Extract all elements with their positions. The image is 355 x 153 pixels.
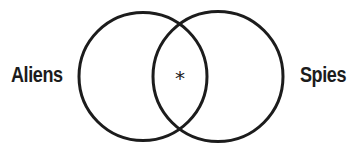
asterisk-icon: * [173,68,187,88]
set-circle-aliens [79,13,207,141]
set-label-aliens: Aliens [11,64,63,86]
venn-diagram: Aliens Spies * [0,0,355,153]
set-label-spies: Spies [300,64,346,86]
